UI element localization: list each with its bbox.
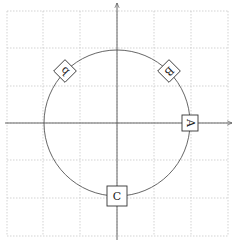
node-label: C — [113, 190, 121, 203]
circle-diagram: ABbC — [0, 0, 235, 247]
node-b: b — [54, 60, 77, 83]
node-A: A — [182, 115, 198, 131]
node-labels: ABbC — [54, 60, 198, 206]
node-B: B — [158, 60, 181, 83]
node-label: A — [184, 118, 197, 128]
node-C: C — [107, 186, 127, 206]
